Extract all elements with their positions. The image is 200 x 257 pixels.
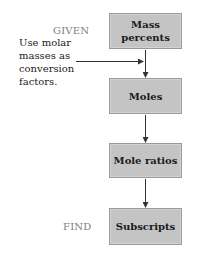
step-label-line2: percents [121,31,170,44]
step-subscripts: Subscripts [109,208,182,245]
given-label: GIVEN [53,25,89,36]
step-label-line1: Mass [121,18,170,31]
conversion-note: Use molar masses as conversion factors. [19,36,89,88]
step-label: Mole ratios [114,154,178,167]
step-moles: Moles [109,78,182,114]
step-label: Subscripts [116,220,176,233]
find-label: FIND [63,221,91,232]
step-mass-percents: Mass percents [109,13,182,49]
step-label: Moles [129,90,163,103]
step-mole-ratios: Mole ratios [109,143,182,178]
